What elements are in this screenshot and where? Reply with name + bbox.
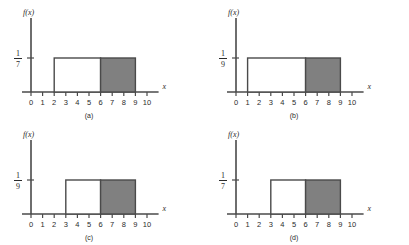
y-axis-label: f(x) (228, 8, 239, 17)
chart-panel-d: 01234567891017xf(x)(d) (205, 122, 409, 245)
x-tick-label: 0 (234, 220, 238, 229)
x-tick-label: 2 (52, 220, 56, 229)
x-tick-label: 0 (29, 98, 33, 107)
x-tick-label: 7 (315, 98, 319, 107)
x-tick-label: 3 (64, 220, 68, 229)
x-tick-label: 8 (122, 220, 126, 229)
y-axis-fraction-numerator: 1 (221, 49, 225, 58)
x-tick-label: 10 (143, 220, 151, 229)
x-tick-label: 1 (246, 98, 250, 107)
x-tick-label: 9 (133, 98, 137, 107)
y-axis-label: f(x) (23, 130, 34, 139)
x-tick-label: 1 (246, 220, 250, 229)
density-rectangle-shaded (101, 58, 136, 92)
density-rectangle-shaded (306, 180, 341, 214)
x-tick-label: 4 (75, 98, 79, 107)
density-rectangle-unshaded (66, 180, 101, 214)
x-tick-label: 5 (292, 220, 296, 229)
x-tick-label: 4 (75, 220, 79, 229)
panel-caption: (d) (290, 234, 299, 242)
y-axis-fraction-denominator: 9 (16, 182, 20, 191)
x-axis-label: x (162, 204, 167, 213)
x-tick-label: 3 (64, 98, 68, 107)
x-axis-label: x (367, 204, 372, 213)
density-rectangle-shaded (101, 180, 136, 214)
x-tick-label: 1 (41, 220, 45, 229)
y-axis-fraction-numerator: 1 (221, 171, 225, 180)
x-tick-label: 0 (234, 98, 238, 107)
x-axis-label: x (162, 82, 167, 91)
x-tick-label: 10 (143, 98, 151, 107)
chart-panel-a: 01234567891017xf(x)(a) (0, 0, 205, 122)
x-axis-label: x (367, 82, 372, 91)
x-tick-label: 5 (87, 98, 91, 107)
y-axis-fraction-denominator: 7 (16, 60, 20, 69)
y-axis-fraction-denominator: 7 (221, 182, 225, 191)
x-tick-label: 0 (29, 220, 33, 229)
figure-panel-grid: 01234567891017xf(x)(a)01234567891019xf(x… (0, 0, 409, 245)
x-tick-label: 3 (269, 98, 273, 107)
panel-caption: (b) (290, 112, 299, 120)
x-tick-label: 4 (280, 98, 284, 107)
x-tick-label: 5 (292, 98, 296, 107)
density-rectangle-unshaded (54, 58, 100, 92)
x-tick-label: 6 (99, 98, 103, 107)
x-tick-label: 10 (348, 98, 356, 107)
x-tick-label: 4 (280, 220, 284, 229)
y-axis-fraction-numerator: 1 (16, 171, 20, 180)
density-rectangle-unshaded (271, 180, 306, 214)
x-tick-label: 7 (110, 220, 114, 229)
x-tick-label: 8 (327, 98, 331, 107)
x-tick-label: 2 (257, 98, 261, 107)
x-tick-label: 6 (99, 220, 103, 229)
x-tick-label: 8 (327, 220, 331, 229)
panel-caption: (a) (85, 112, 94, 120)
x-tick-label: 9 (338, 98, 342, 107)
x-tick-label: 2 (52, 98, 56, 107)
x-tick-label: 7 (315, 220, 319, 229)
density-rectangle-shaded (306, 58, 341, 92)
x-tick-label: 5 (87, 220, 91, 229)
density-rectangle-unshaded (248, 58, 306, 92)
x-tick-label: 6 (304, 98, 308, 107)
x-tick-label: 9 (338, 220, 342, 229)
x-tick-label: 3 (269, 220, 273, 229)
x-tick-label: 1 (41, 98, 45, 107)
x-tick-label: 2 (257, 220, 261, 229)
x-tick-label: 10 (348, 220, 356, 229)
y-axis-fraction-denominator: 9 (221, 60, 225, 69)
x-tick-label: 8 (122, 98, 126, 107)
y-axis-fraction-numerator: 1 (16, 49, 20, 58)
x-tick-label: 9 (133, 220, 137, 229)
y-axis-label: f(x) (23, 8, 34, 17)
y-axis-label: f(x) (228, 130, 239, 139)
chart-panel-b: 01234567891019xf(x)(b) (205, 0, 409, 122)
panel-caption: (c) (85, 234, 93, 242)
chart-panel-c: 01234567891019xf(x)(c) (0, 122, 205, 245)
x-tick-label: 7 (110, 98, 114, 107)
x-tick-label: 6 (304, 220, 308, 229)
